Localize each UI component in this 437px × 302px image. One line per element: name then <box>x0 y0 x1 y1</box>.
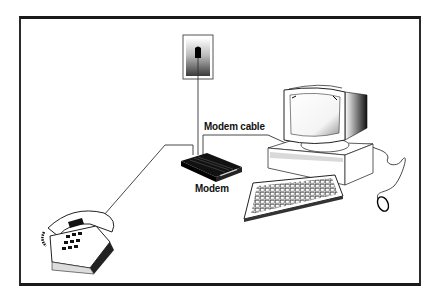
modem-label: Modem <box>195 182 229 194</box>
mouse-cable <box>372 147 405 200</box>
modem-cable-label: Modem cable <box>204 120 265 132</box>
modem-icon <box>181 153 242 182</box>
keyboard-icon <box>244 175 343 222</box>
telephone-icon <box>42 211 114 274</box>
diagram-scene <box>0 0 437 302</box>
phone-cable <box>104 145 193 215</box>
monitor-icon <box>284 85 367 152</box>
